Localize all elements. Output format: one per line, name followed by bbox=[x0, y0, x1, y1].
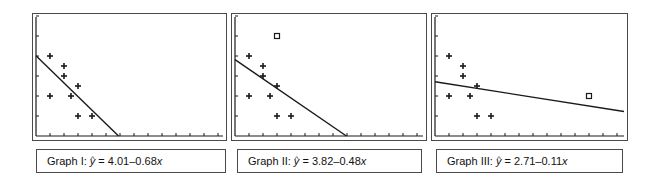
equation-text-3: = 2.71–0.11 bbox=[501, 155, 562, 167]
data-point-plus-marker bbox=[246, 53, 252, 59]
graph-title-3: Graph III: bbox=[447, 155, 496, 167]
equation-label-2: Graph II: y = 3.82–0.48x bbox=[237, 149, 422, 173]
data-point-plus-marker bbox=[467, 93, 473, 99]
data-point-plus-marker bbox=[274, 83, 280, 89]
equation-text-2: = 3.82–0.48 bbox=[299, 155, 360, 167]
data-point-plus-marker bbox=[474, 113, 480, 119]
scatter-plot-1 bbox=[33, 14, 228, 142]
regression-line bbox=[235, 60, 346, 136]
y-hat-symbol: y bbox=[294, 155, 300, 167]
data-point-plus-marker bbox=[274, 113, 280, 119]
outlier-square-marker bbox=[587, 94, 592, 99]
plot-frame-3 bbox=[431, 13, 628, 141]
data-point-plus-marker bbox=[446, 93, 452, 99]
data-point-plus-marker bbox=[460, 73, 466, 79]
equation-text-1: = 4.01–0.68 bbox=[95, 155, 156, 167]
data-point-plus-marker bbox=[47, 53, 53, 59]
x-variable: x bbox=[562, 155, 568, 167]
outlier-square-marker bbox=[275, 34, 280, 39]
data-point-plus-marker bbox=[460, 63, 466, 69]
scatter-plot-2 bbox=[232, 14, 428, 142]
plot-frame-2 bbox=[231, 13, 427, 141]
data-point-plus-marker bbox=[246, 93, 252, 99]
y-hat-symbol: y bbox=[90, 155, 96, 167]
x-variable: x bbox=[361, 155, 367, 167]
data-point-plus-marker bbox=[75, 113, 81, 119]
equation-label-1: Graph I: y = 4.01–0.68x bbox=[36, 149, 226, 173]
scatter-plot-3 bbox=[432, 14, 629, 142]
plot-frame-1 bbox=[32, 13, 227, 141]
data-point-plus-marker bbox=[267, 93, 273, 99]
data-point-plus-marker bbox=[68, 93, 74, 99]
regression-line bbox=[435, 82, 624, 112]
data-point-plus-marker bbox=[61, 63, 67, 69]
data-point-plus-marker bbox=[488, 113, 494, 119]
data-point-plus-marker bbox=[75, 83, 81, 89]
graph-title-1: Graph I: bbox=[47, 155, 90, 167]
graph-title-2: Graph II: bbox=[248, 155, 294, 167]
data-point-plus-marker bbox=[446, 53, 452, 59]
data-point-plus-marker bbox=[47, 93, 53, 99]
x-variable: x bbox=[157, 155, 163, 167]
data-point-plus-marker bbox=[260, 63, 266, 69]
data-point-plus-marker bbox=[89, 113, 95, 119]
data-point-plus-marker bbox=[288, 113, 294, 119]
equation-label-3: Graph III: y = 2.71–0.11x bbox=[436, 149, 623, 173]
y-hat-symbol: y bbox=[496, 155, 502, 167]
data-point-plus-marker bbox=[61, 73, 67, 79]
